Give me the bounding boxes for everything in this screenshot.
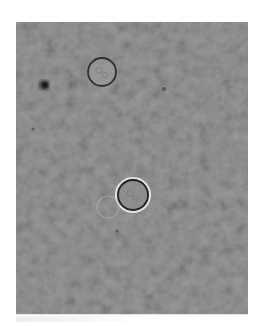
micrograph-image: [16, 22, 248, 314]
small-speck-3-icon: [116, 230, 119, 233]
small-speck-icon: [162, 87, 166, 91]
caption-artifact: [16, 316, 126, 322]
cell-lower: [116, 178, 150, 212]
micrograph-frame: [16, 22, 248, 315]
cell-upper: [88, 58, 116, 86]
small-speck-2-icon: [32, 128, 35, 131]
